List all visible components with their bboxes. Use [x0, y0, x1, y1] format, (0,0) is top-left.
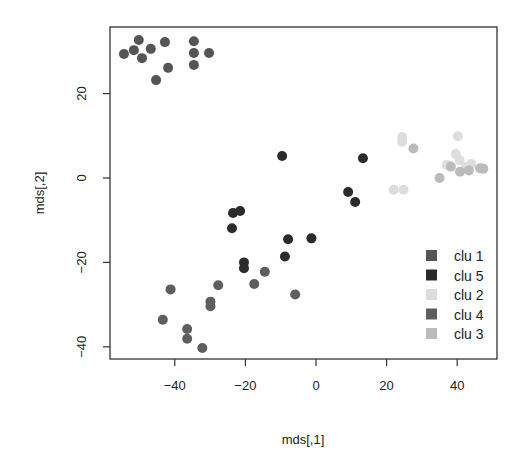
data-point — [151, 75, 161, 85]
data-point — [389, 185, 399, 195]
data-point — [306, 233, 316, 243]
y-tick-label: −40 — [74, 336, 89, 358]
data-point — [260, 267, 270, 277]
data-point — [408, 143, 418, 153]
data-points — [119, 35, 488, 353]
data-point — [129, 45, 139, 55]
legend-label: clu 4 — [454, 307, 484, 323]
scatter-chart: −40−2002040 −40−20020 mds[,1] mds[,2] cl… — [0, 0, 524, 464]
data-point — [290, 289, 300, 299]
data-point — [280, 251, 290, 261]
data-point — [249, 279, 259, 289]
y-tick-label: −20 — [74, 251, 89, 273]
legend-swatch — [426, 270, 437, 281]
plot-box — [110, 27, 497, 359]
data-point — [343, 187, 353, 197]
data-point — [446, 162, 456, 172]
data-point — [397, 137, 407, 147]
data-point — [189, 48, 199, 58]
data-point — [478, 164, 488, 174]
legend-label: clu 3 — [454, 326, 484, 342]
data-point — [182, 334, 192, 344]
x-tick-label: 0 — [312, 378, 319, 393]
x-tick-label: 20 — [379, 378, 393, 393]
data-point — [350, 197, 360, 207]
data-point — [160, 37, 170, 47]
x-tick-label: −20 — [234, 378, 256, 393]
data-point — [235, 206, 245, 216]
data-point — [213, 280, 223, 290]
x-axis-label: mds[,1] — [282, 432, 325, 447]
legend-label: clu 2 — [454, 287, 484, 303]
data-point — [455, 167, 465, 177]
data-point — [283, 234, 293, 244]
data-point — [464, 165, 474, 175]
data-point — [134, 35, 144, 45]
data-point — [119, 49, 129, 59]
x-tick-label: 40 — [450, 378, 464, 393]
legend-label: clu 5 — [454, 268, 484, 284]
legend: clu 1clu 5clu 2clu 4clu 3 — [426, 248, 484, 342]
data-point — [399, 185, 409, 195]
data-point — [204, 48, 214, 58]
data-point — [137, 53, 147, 63]
legend-swatch — [426, 309, 437, 320]
x-tick-label: −40 — [164, 378, 186, 393]
data-point — [435, 173, 445, 183]
y-axis: −40−20020 — [74, 86, 110, 357]
data-point — [182, 324, 192, 334]
data-point — [205, 301, 215, 311]
legend-label: clu 1 — [454, 248, 484, 264]
data-point — [358, 153, 368, 163]
data-point — [453, 131, 463, 141]
legend-swatch — [426, 250, 437, 261]
x-axis: −40−2002040 — [164, 359, 465, 393]
data-point — [163, 63, 173, 73]
y-tick-label: 20 — [74, 86, 89, 100]
y-tick-label: 0 — [74, 174, 89, 181]
data-point — [166, 284, 176, 294]
y-axis-label: mds[,2] — [32, 172, 47, 215]
data-point — [227, 223, 237, 233]
data-point — [146, 44, 156, 54]
data-point — [189, 60, 199, 70]
legend-swatch — [426, 328, 437, 339]
data-point — [158, 315, 168, 325]
data-point — [197, 343, 207, 353]
data-point — [189, 36, 199, 46]
legend-swatch — [426, 289, 437, 300]
data-point — [277, 151, 287, 161]
data-point — [239, 263, 249, 273]
